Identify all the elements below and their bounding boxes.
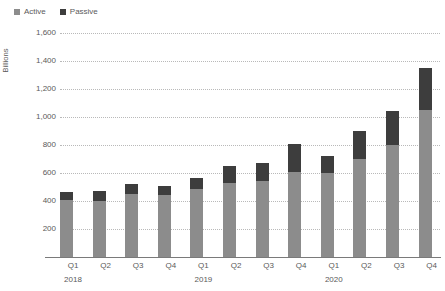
bar-segment-passive[interactable] [321,156,334,174]
y-axis-tick-label: 200 [22,225,56,233]
x-tick-quarter: Q4 [284,260,318,271]
bar-column[interactable] [386,111,399,257]
x-tick-quarter: Q1 [317,260,351,271]
bar-segment-active[interactable] [60,200,73,257]
bar-column[interactable] [60,192,73,257]
bar-segment-active[interactable] [386,145,399,257]
x-axis-tick-label: Q3 [121,260,155,271]
bar-segment-passive[interactable] [158,186,171,195]
y-axis-title-text: Billions [1,48,10,72]
legend-label-passive: Passive [70,7,98,17]
x-axis-tick-labels: Q12018Q2Q3Q4Q12019Q2Q3Q4Q12020Q2Q3Q4 [60,260,445,291]
bar-column[interactable] [321,156,334,258]
bar-segment-passive[interactable] [190,178,203,189]
bar-segment-active[interactable] [321,173,334,257]
x-axis-tick-label: Q12019 [186,260,220,285]
x-axis-tick-label: Q2 [219,260,253,271]
x-tick-quarter: Q1 [56,260,90,271]
x-axis-tick-label: Q3 [382,260,416,271]
bar-segment-passive[interactable] [353,131,366,159]
bar-column[interactable] [223,166,236,257]
x-axis-tick-label: Q4 [415,260,445,271]
bar-segment-passive[interactable] [223,166,236,183]
bar-segment-passive[interactable] [125,184,138,194]
legend-swatch-passive [60,9,66,15]
y-axis-title: Billions [0,30,11,90]
bar-segment-active[interactable] [353,159,366,257]
y-axis-tick-label: 1,600 [22,29,56,37]
x-tick-quarter: Q4 [154,260,188,271]
x-tick-quarter: Q1 [186,260,220,271]
x-tick-quarter: Q3 [252,260,286,271]
gridline [60,61,440,62]
x-tick-quarter: Q4 [415,260,445,271]
bar-segment-active[interactable] [190,189,203,257]
bar-segment-passive[interactable] [256,163,269,181]
y-axis-tick-label: 800 [22,141,56,149]
bar-column[interactable] [190,178,203,257]
x-axis-tick-label: Q2 [89,260,123,271]
y-axis-tick-label: 1,200 [22,85,56,93]
bar-segment-active[interactable] [125,194,138,257]
y-axis-tick-label: 400 [22,197,56,205]
bar-segment-active[interactable] [223,183,236,257]
x-tick-year: 2018 [56,274,90,285]
bar-segment-active[interactable] [158,195,171,257]
x-axis-tick-label: Q4 [284,260,318,271]
bar-segment-active[interactable] [256,181,269,257]
x-tick-year: 2019 [186,274,220,285]
x-axis-tick-label: Q12020 [317,260,351,285]
bar-segment-active[interactable] [93,201,106,257]
x-tick-year: 2020 [317,274,351,285]
bar-segment-passive[interactable] [288,144,301,172]
bar-segment-active[interactable] [419,110,432,257]
x-tick-quarter: Q3 [121,260,155,271]
x-axis-tick-label: Q2 [349,260,383,271]
bar-segment-passive[interactable] [60,192,73,200]
x-tick-quarter: Q2 [219,260,253,271]
x-tick-quarter: Q3 [382,260,416,271]
x-axis-tick-label: Q12018 [56,260,90,285]
bar-column[interactable] [93,191,106,258]
y-axis-tick-labels: 1,6001,4001,2001,000800600400200– [18,0,56,291]
x-tick-quarter: Q2 [349,260,383,271]
gridline [60,89,440,90]
bar-segment-passive[interactable] [419,68,432,110]
x-axis-tick-label: Q4 [154,260,188,271]
bar-column[interactable] [419,68,432,257]
bar-column[interactable] [288,144,301,257]
chart-container: Active Passive Billions 1,6001,4001,2001… [0,0,445,291]
gridline [60,145,440,146]
bar-segment-passive[interactable] [93,191,106,202]
gridline [60,117,440,118]
bar-segment-passive[interactable] [386,111,399,145]
gridline [60,201,440,202]
legend-item-passive[interactable]: Passive [60,7,98,17]
gridline [60,33,440,34]
x-axis-tick-label: Q3 [252,260,286,271]
x-axis-baseline [45,257,441,258]
gridline [60,173,440,174]
y-axis-tick-label: 1,000 [22,113,56,121]
bar-segment-active[interactable] [288,172,301,257]
bar-column[interactable] [256,163,269,257]
gridline [60,229,440,230]
y-axis-tick-label: 1,400 [22,57,56,65]
bar-column[interactable] [125,184,138,257]
y-axis-tick-label: 600 [22,169,56,177]
bar-column[interactable] [158,186,171,257]
bar-column[interactable] [353,131,366,257]
plot-area [60,33,440,257]
x-tick-quarter: Q2 [89,260,123,271]
